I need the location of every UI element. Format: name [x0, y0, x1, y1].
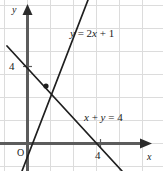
line-label-constant: 1	[109, 27, 115, 39]
x-axis-arrowhead	[140, 139, 152, 149]
origin-label: O	[17, 148, 24, 158]
graph-canvas	[0, 0, 163, 171]
line-label-constant: 4	[117, 111, 123, 123]
line-x-plus-y-4	[7, 46, 122, 171]
y-axis-label: y	[12, 5, 16, 15]
y-axis-tick-label-4: 4	[9, 61, 15, 72]
coordinate-graph-figure: y = 2x + 1 x + y = 4 4 4 x y O	[0, 0, 163, 171]
line-label-y-2x-plus-1: y = 2x + 1	[70, 28, 114, 39]
line-label-x-plus-y-4: x + y = 4	[84, 112, 123, 123]
x-axis-label: x	[147, 152, 151, 162]
intersection-point	[43, 83, 48, 88]
x-axis-tick-label-4: 4	[95, 150, 101, 161]
grid-lines	[0, 0, 163, 171]
line-y-2x-plus-1	[22, 0, 88, 171]
